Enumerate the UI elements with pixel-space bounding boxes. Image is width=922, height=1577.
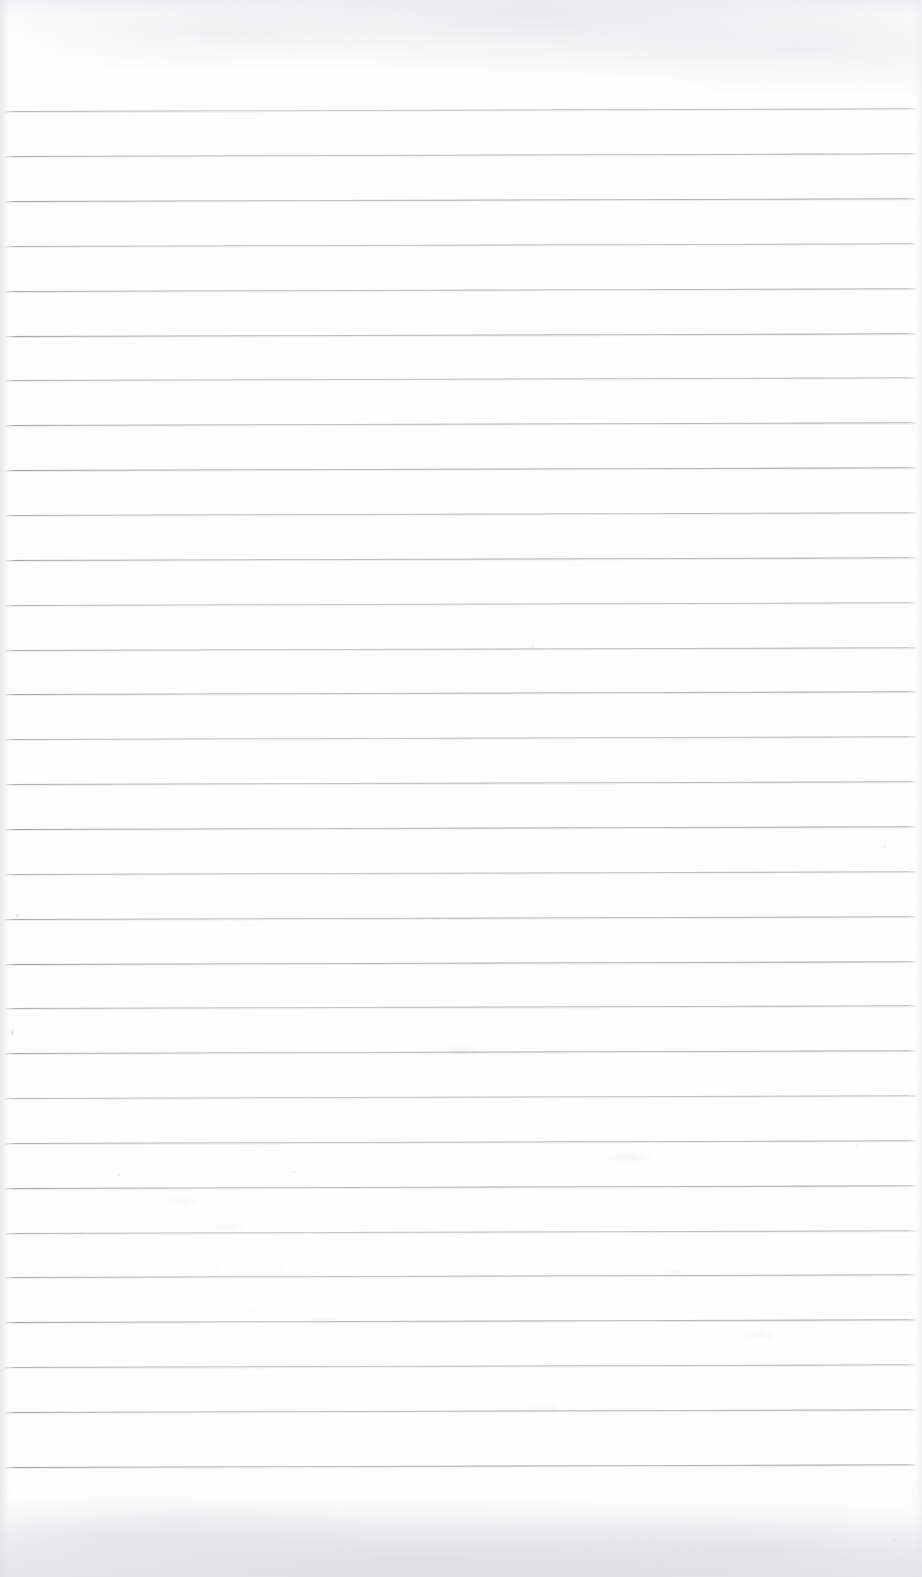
scanned-page <box>0 0 922 1577</box>
paper-surface <box>0 0 922 1577</box>
